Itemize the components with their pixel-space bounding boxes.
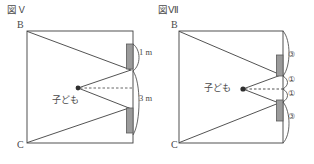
figure-vi: 図Ⅶ B C 子ども ③ ① ① ③ xyxy=(157,0,314,164)
figure-vi-diagram xyxy=(157,0,314,164)
figure-vi-child-point xyxy=(240,86,245,91)
figure-vi-ray-lines xyxy=(180,32,282,143)
figure-v-mirror-lower xyxy=(127,108,134,133)
figure-vi-mirror-upper xyxy=(277,55,284,76)
figure-v: 図Ｖ B C 子ども 1 m 3 m xyxy=(0,0,157,164)
figure-v-dimension-braces xyxy=(133,44,139,135)
figure-v-child-point xyxy=(76,86,81,91)
figure-pair-illustration: 図Ｖ B C 子ども 1 m 3 m xyxy=(0,0,314,164)
figure-vi-mirror-lower xyxy=(277,100,284,121)
figure-vi-room-outline xyxy=(179,31,283,143)
figure-v-mirror-upper xyxy=(127,44,134,69)
figure-v-diagram xyxy=(0,0,157,164)
figure-vi-segment-braces xyxy=(283,31,289,143)
